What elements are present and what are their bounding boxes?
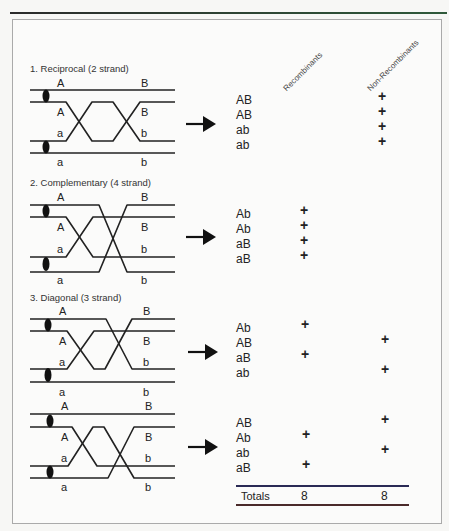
p1-right-label-1: B: [141, 77, 148, 89]
p4-strand-2: [30, 427, 175, 466]
p3-strand-3: [30, 331, 175, 369]
p3-genotype-4: ab: [236, 367, 249, 380]
p1-left-label-2: A: [57, 106, 64, 118]
p1-nonrec-mark-4: +: [378, 135, 386, 148]
p4-left-label-1: A: [61, 400, 68, 412]
totals-bottom-rule: [236, 504, 409, 506]
p4-genotype-1: AB: [236, 417, 252, 430]
p3-left-label-3: a: [59, 356, 65, 368]
p2-right-label-2: B: [141, 221, 148, 233]
p3-strand-2: [30, 319, 175, 369]
p3-right-label-3: b: [143, 356, 149, 368]
p3-genotype-3: aB: [236, 352, 251, 365]
p3-genotype-2: AB: [236, 337, 252, 350]
p2-genotype-4: aB: [236, 253, 251, 266]
p2-genotype-3: aB: [236, 238, 251, 251]
centromere-oval-icon: [43, 90, 54, 479]
p1-strand-3: [30, 102, 175, 141]
totals-recombinants: 8: [301, 489, 308, 503]
p3-left-label-1: A: [59, 305, 66, 317]
p2-rec-mark-3: +: [300, 234, 308, 247]
p1-genotype-1: AB: [236, 94, 252, 107]
p4-genotype-4: aB: [236, 462, 251, 475]
p2-right-label-1: B: [141, 191, 148, 203]
p2-right-label-4: b: [141, 274, 147, 286]
p3-nonrec-mark-2: +: [381, 333, 389, 346]
p1-strand-2: [30, 102, 175, 141]
p3-left-label-4: a: [59, 386, 65, 398]
p3-strand-1: [30, 319, 175, 369]
p3-rec-mark-1: +: [301, 318, 309, 331]
p1-left-label-4: a: [57, 156, 63, 168]
p1-genotype-3: ab: [236, 124, 249, 137]
p2-strand-2: [30, 217, 175, 257]
p2-genotype-1: Ab: [236, 208, 251, 221]
p3-genotype-1: Ab: [236, 322, 251, 335]
p1-nonrec-mark-2: +: [378, 105, 386, 118]
p1-right-label-3: b: [141, 127, 147, 139]
totals-label: Totals: [241, 490, 270, 502]
p4-genotype-3: ab: [236, 447, 249, 460]
p2-rec-mark-1: +: [300, 204, 308, 217]
p4-right-label-1: B: [145, 400, 152, 412]
right-arrow-icon: [186, 116, 218, 455]
p4-left-label-3: a: [61, 452, 67, 464]
p2-strand-3: [30, 217, 175, 257]
p2-rec-mark-2: +: [300, 219, 308, 232]
p2-left-label-3: a: [57, 243, 63, 255]
p3-right-label-1: B: [143, 305, 150, 317]
p4-left-label-2: A: [61, 431, 68, 443]
p1-left-label-3: a: [57, 127, 63, 139]
p2-left-label-1: A: [57, 191, 64, 203]
p4-left-label-4: a: [61, 481, 67, 493]
p3-right-label-4: b: [143, 386, 149, 398]
p3-rec-mark-3: +: [301, 348, 309, 361]
p1-nonrec-mark-1: +: [378, 90, 386, 103]
p2-left-label-2: A: [57, 221, 64, 233]
p2-left-label-4: a: [57, 274, 63, 286]
p4-rec-mark-4: +: [302, 458, 310, 471]
p1-nonrec-mark-3: +: [378, 120, 386, 133]
p2-right-label-3: b: [141, 243, 147, 255]
totals-nonrecombinants: 8: [381, 489, 388, 503]
p4-genotype-2: Ab: [236, 432, 251, 445]
p4-right-label-3: b: [145, 452, 151, 464]
p4-right-label-2: B: [145, 431, 152, 443]
p1-right-label-4: b: [141, 156, 147, 168]
p3-right-label-2: B: [143, 335, 150, 347]
p4-right-label-4: b: [145, 481, 151, 493]
p1-genotype-2: AB: [236, 109, 252, 122]
p4-nonrec-mark-1: +: [381, 413, 389, 426]
p2-genotype-2: Ab: [236, 223, 251, 236]
p2-rec-mark-4: +: [300, 249, 308, 262]
p4-nonrec-mark-3: +: [381, 443, 389, 456]
totals-top-rule: [236, 485, 409, 487]
p4-rec-mark-2: +: [302, 428, 310, 441]
p1-left-label-1: A: [57, 77, 64, 89]
p1-right-label-2: B: [141, 106, 148, 118]
p3-nonrec-mark-4: +: [381, 363, 389, 376]
p1-genotype-4: ab: [236, 139, 249, 152]
p3-left-label-2: A: [59, 335, 66, 347]
